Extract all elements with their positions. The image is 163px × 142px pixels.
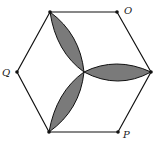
vertex-dot-o: [115, 10, 119, 14]
shaded-petal-bottom: [49, 72, 84, 132]
vertex-dot-q: [15, 70, 19, 74]
vertex-dot: [47, 130, 51, 134]
vertex-dot: [48, 10, 52, 14]
label-p: P: [122, 129, 130, 140]
label-o: O: [124, 5, 132, 16]
hexagon-diagram: O P Q: [0, 0, 163, 142]
shaded-petal-right: [84, 64, 151, 81]
shaded-petal-top: [50, 12, 84, 72]
vertex-dot: [149, 70, 153, 74]
vertex-dot-p: [116, 130, 120, 134]
label-q: Q: [2, 67, 10, 78]
